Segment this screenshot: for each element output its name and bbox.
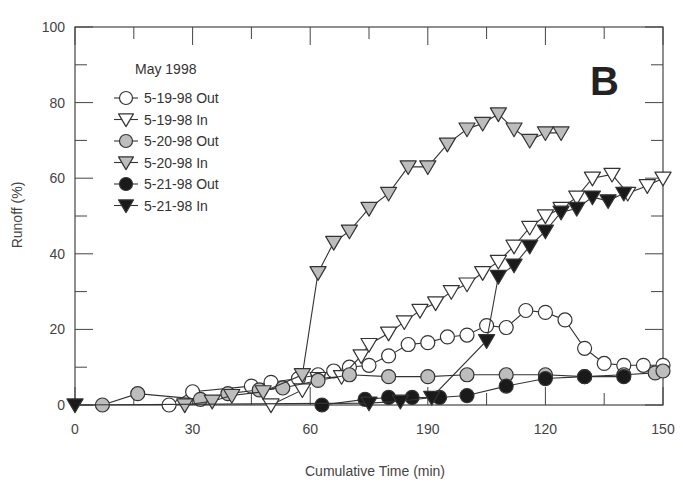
triangle-down-marker-icon [381, 187, 397, 201]
circle-marker-icon [440, 330, 454, 344]
circle-marker-icon [558, 313, 572, 327]
triangle-down-marker-icon [459, 123, 475, 137]
triangle-down-marker-icon [400, 161, 416, 175]
circle-marker-icon [120, 135, 133, 148]
circle-marker-icon [382, 370, 396, 384]
circle-marker-icon [578, 341, 592, 355]
triangle-down-marker-icon [490, 270, 506, 284]
triangle-down-marker-icon [439, 138, 455, 152]
y-tick-label: 40 [49, 246, 65, 262]
circle-marker-icon [519, 304, 533, 318]
x-tick-label: 30 [185, 421, 201, 437]
circle-marker-icon [538, 372, 552, 386]
legend-item: 5-20-98 In [114, 155, 208, 171]
circle-marker-icon [656, 364, 670, 378]
triangle-down-marker-icon [177, 399, 193, 413]
triangle-down-marker-icon [655, 172, 671, 186]
circle-marker-icon [131, 387, 145, 401]
triangle-down-marker-icon [119, 157, 134, 170]
triangle-down-marker-icon [428, 297, 444, 311]
circle-marker-icon [120, 178, 133, 191]
circle-marker-icon [382, 349, 396, 363]
triangle-down-marker-icon [67, 399, 83, 413]
triangle-down-marker-icon [475, 267, 491, 281]
legend-label: 5-21-98 In [144, 198, 208, 214]
x-tick-label: 60 [302, 421, 318, 437]
x-tick-label: 190 [416, 421, 440, 437]
triangle-down-marker-icon [639, 180, 655, 194]
legend: May 19985-19-98 Out5-19-98 In5-20-98 Out… [114, 61, 219, 214]
triangle-down-marker-icon [326, 236, 342, 250]
circle-marker-icon [401, 338, 415, 352]
circle-marker-icon [538, 305, 552, 319]
circle-marker-icon [315, 398, 329, 412]
triangle-down-marker-icon [490, 255, 506, 269]
y-tick-label: 100 [42, 19, 66, 35]
x-axis-title: Cumulative Time (min) [305, 463, 445, 479]
circle-marker-icon [460, 328, 474, 342]
triangle-down-marker-icon [341, 225, 357, 239]
x-tick-label: 150 [651, 421, 675, 437]
triangle-down-marker-icon [553, 127, 569, 141]
circle-marker-icon [362, 358, 376, 372]
y-tick-label: 0 [57, 397, 65, 413]
legend-item: 5-19-98 Out [114, 90, 219, 106]
triangle-down-marker-icon [412, 304, 428, 318]
triangle-down-marker-icon [420, 161, 436, 175]
triangle-down-marker-icon [263, 399, 279, 413]
triangle-down-marker-icon [584, 172, 600, 186]
triangle-down-marker-icon [443, 286, 459, 300]
legend-label: 5-20-98 Out [144, 133, 219, 149]
circle-marker-icon [162, 398, 176, 412]
legend-title: May 1998 [135, 61, 197, 77]
circle-marker-icon [342, 368, 356, 382]
triangle-down-marker-icon [553, 206, 569, 220]
y-tick-label: 60 [49, 170, 65, 186]
triangle-down-marker-icon [522, 221, 538, 235]
triangle-down-marker-icon [381, 327, 397, 341]
legend-label: 5-19-98 In [144, 112, 208, 128]
circle-marker-icon [499, 321, 513, 335]
legend-label: 5-20-98 In [144, 155, 208, 171]
triangle-down-marker-icon [459, 278, 475, 292]
triangle-down-marker-icon [119, 200, 134, 213]
triangle-down-marker-icon [506, 123, 522, 137]
triangle-down-marker-icon [522, 240, 538, 254]
legend-label: 5-21-98 Out [144, 176, 219, 192]
series-line [169, 311, 663, 406]
y-axis-title: Runoff (%) [9, 182, 25, 249]
triangle-down-marker-icon [361, 202, 377, 216]
y-tick-label: 20 [49, 321, 65, 337]
triangle-down-marker-icon [537, 210, 553, 224]
circle-marker-icon [499, 379, 513, 393]
triangle-down-marker-icon [119, 114, 134, 127]
circle-marker-icon [617, 370, 631, 384]
legend-item: 5-21-98 In [114, 198, 208, 214]
runoff-chart: 02040608010003060190120150 May 19985-19-… [0, 0, 683, 485]
circle-marker-icon [597, 356, 611, 370]
circle-marker-icon [421, 336, 435, 350]
panel-label: B [590, 59, 619, 103]
triangle-down-marker-icon [310, 267, 326, 281]
triangle-down-marker-icon [522, 134, 538, 148]
circle-marker-icon [480, 319, 494, 333]
legend-item: 5-21-98 Out [114, 176, 219, 192]
y-tick-label: 80 [49, 95, 65, 111]
circle-marker-icon [460, 368, 474, 382]
x-tick-label: 120 [534, 421, 558, 437]
triangle-down-marker-icon [506, 259, 522, 273]
triangle-down-marker-icon [537, 127, 553, 141]
triangle-down-marker-icon [600, 195, 616, 209]
circle-marker-icon [120, 92, 133, 105]
circle-marker-icon [421, 370, 435, 384]
legend-label: 5-19-98 Out [144, 90, 219, 106]
triangle-down-marker-icon [396, 316, 412, 330]
triangle-down-marker-icon [475, 117, 491, 131]
legend-item: 5-20-98 Out [114, 133, 219, 149]
legend-item: 5-19-98 In [114, 112, 208, 128]
circle-marker-icon [460, 389, 474, 403]
circle-marker-icon [578, 370, 592, 384]
x-tick-label: 0 [71, 421, 79, 437]
circle-marker-icon [311, 373, 325, 387]
triangle-down-marker-icon [294, 384, 310, 398]
